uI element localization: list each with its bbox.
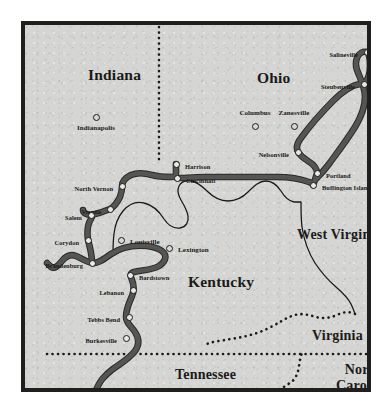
map-root: IndianaOhioKentuckyWest VirginiaVirginia…	[0, 0, 391, 413]
city-label-louisville: Louisville	[130, 239, 160, 246]
city-marker-icon	[295, 149, 302, 156]
city-label-tebbs-bend: Tebbs Bend	[88, 316, 120, 323]
city-label-brandenburg: Brandenburg	[46, 262, 83, 269]
state-label-west-virginia: West Virginia	[297, 227, 371, 243]
city-marker-icon	[123, 335, 130, 342]
city-marker-icon	[314, 170, 321, 177]
map-frame: IndianaOhioKentuckyWest VirginiaVirginia…	[21, 21, 371, 392]
city-label-salineville: Salineville	[329, 51, 358, 58]
city-marker-icon	[174, 175, 181, 182]
state-label-kentucky: Kentucky	[188, 273, 254, 291]
state-label-tennessee: Tennessee	[175, 367, 236, 383]
city-marker-icon	[126, 314, 133, 321]
city-label-columbus: Columbus	[239, 110, 270, 117]
state-label-ohio: Ohio	[257, 69, 291, 87]
city-marker-icon	[118, 237, 125, 244]
city-marker-icon	[310, 182, 317, 189]
city-marker-icon	[361, 81, 368, 88]
city-label-steubenville: Steubenville	[321, 83, 355, 90]
city-label-salem: Salem	[65, 214, 82, 221]
city-marker-icon	[107, 206, 114, 213]
city-marker-icon	[127, 272, 134, 279]
city-label-lebanon: Lebanon	[99, 289, 124, 296]
state-border-va-nc	[272, 353, 302, 388]
city-label-north-vernon: North Vernon	[75, 185, 113, 192]
city-marker-icon	[291, 123, 298, 130]
city-label-corydon: Corydon	[55, 239, 80, 246]
state-label-line: North	[336, 362, 371, 378]
city-marker-icon	[173, 161, 180, 168]
state-label-north-carolina: NorthCarolina	[336, 362, 371, 392]
city-label-indianapolis: Indianapolis	[77, 125, 115, 132]
city-marker-icon	[89, 260, 96, 267]
city-label-buffington-island: Buffington Island	[322, 184, 371, 191]
state-label-virginia: Virginia	[312, 328, 363, 344]
city-marker-icon	[119, 183, 126, 190]
state-label-line: Carolina	[336, 378, 371, 392]
city-label-burkesville: Burkesville	[86, 337, 117, 344]
city-marker-icon	[88, 212, 95, 219]
city-marker-icon	[252, 123, 259, 130]
state-label-indiana: Indiana	[88, 66, 141, 84]
city-label-harrison: Harrison	[185, 163, 210, 170]
city-marker-icon	[93, 114, 100, 121]
city-marker-icon	[166, 245, 173, 252]
city-label-zanesville: Zanesville	[279, 110, 310, 117]
city-marker-icon	[364, 49, 371, 56]
city-label-cincinnati: Cincinnati	[186, 177, 215, 184]
city-marker-icon	[130, 287, 137, 294]
city-label-bardstown: Bardstown	[139, 274, 169, 281]
city-label-nelsonville: Nelsonville	[259, 151, 289, 158]
city-marker-icon	[85, 237, 92, 244]
city-label-lexington: Lexington	[178, 247, 209, 254]
city-label-portland: Portland	[326, 172, 351, 179]
